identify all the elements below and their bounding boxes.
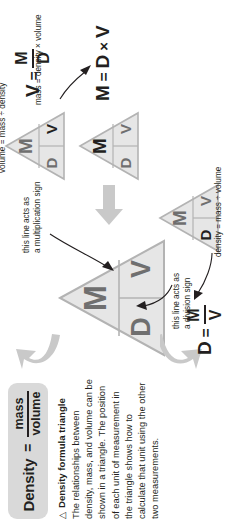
formula-equals-sign: = (20, 444, 36, 452)
arrow-to-mass-branch-icon (92, 185, 126, 225)
caption: △ Density formula triangle The relations… (56, 379, 162, 519)
density-equation-equals: = (197, 329, 214, 338)
formula-numerator: mass (13, 398, 26, 430)
caption-body: The relationships between density, mass,… (70, 379, 162, 519)
arrow-to-volume-branch-icon (16, 331, 62, 375)
formula-subject: Density (20, 459, 37, 512)
volume-equation-denominator: D (36, 52, 52, 64)
mass-equation-rhs-right: V (92, 25, 114, 38)
volume-triangle-label-mass: M (16, 111, 35, 181)
formula-denominator: volume (30, 392, 43, 436)
density-equation-numerator: M (186, 308, 202, 321)
mass-equation: M = D × V (92, 25, 114, 101)
volume-words: volume = mass ÷ density (0, 53, 9, 173)
density-fraction-bar (204, 306, 206, 325)
density-formula-figure: Density = mass volume △ Density formula … (0, 0, 233, 525)
volume-fraction-bar (32, 49, 34, 68)
mass-equation-operator: × (95, 42, 112, 51)
volume-equation-fraction: M D (14, 49, 52, 68)
volume-equation: V = M D (14, 49, 52, 97)
volume-equation-equals: = (25, 72, 42, 81)
volume-branch-triangle: M D V (4, 111, 66, 181)
triangle-bullet-icon: △ (56, 512, 68, 519)
rotated-figure-wrapper: Density = mass volume △ Density formula … (0, 0, 233, 525)
density-words: density = mass ÷ volume (214, 127, 225, 257)
density-formula-box: Density = mass volume (8, 383, 48, 519)
density-equation-fraction: M V (186, 306, 224, 325)
mass-branch-triangle: M D V (78, 111, 140, 181)
density-triangle-label-density: D (198, 222, 213, 248)
volume-triangle-label-density: D (44, 150, 59, 176)
multiplication-callout-arrow-icon (46, 230, 118, 282)
volume-equation-lhs: V (22, 84, 44, 97)
caption-title: Density formula triangle (56, 398, 68, 508)
density-triangle-label-volume: V (198, 188, 213, 214)
density-words-arrow-icon (186, 251, 216, 307)
mass-triangle-label-density: D (118, 150, 133, 176)
mass-triangle-label-volume: V (118, 116, 133, 142)
density-equation-lhs: D (194, 341, 216, 355)
division-callout-arrow-icon (128, 283, 174, 329)
mass-triangle-label-mass: M (90, 111, 109, 181)
mass-equation-rhs-left: D (92, 55, 114, 69)
mass-equation-equals: = (95, 72, 112, 81)
formula-fraction: mass volume (13, 391, 44, 437)
density-branch-triangle: M D V (158, 183, 220, 253)
density-equation-denominator: V (208, 310, 224, 321)
volume-equation-numerator: M (14, 51, 30, 64)
mass-equation-lhs: M (92, 85, 114, 101)
density-equation: D = M V (186, 306, 224, 356)
density-triangle-label-mass: M (170, 183, 189, 253)
volume-triangle-label-volume: V (44, 116, 59, 142)
mass-words-arrow-icon (54, 61, 92, 101)
